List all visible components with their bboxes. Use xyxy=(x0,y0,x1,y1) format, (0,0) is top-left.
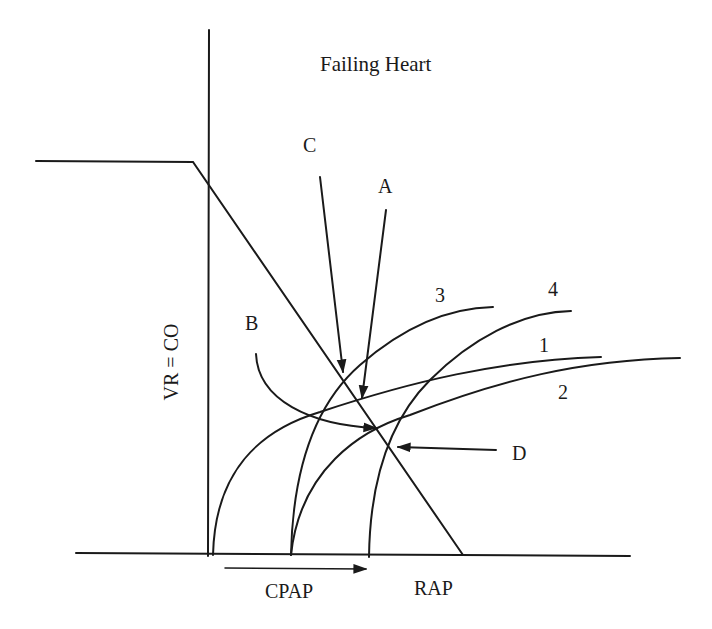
curve-label-1: 1 xyxy=(539,335,549,355)
arrow-label-d: D xyxy=(512,443,526,463)
arrow-c xyxy=(320,177,343,372)
diagram-title: Failing Heart xyxy=(320,54,431,75)
x-axis xyxy=(76,553,630,556)
venous-return-line xyxy=(36,161,463,555)
cpap-arrow xyxy=(225,568,366,569)
y-axis-label: VR = CO xyxy=(161,324,181,401)
curve-3 xyxy=(291,307,493,555)
arrow-b xyxy=(256,354,376,428)
curve-label-2: 2 xyxy=(558,382,568,402)
y-axis xyxy=(208,30,209,556)
arrow-d xyxy=(398,447,496,450)
cardiac-venous-return-diagram xyxy=(0,0,712,629)
arrow-label-a: A xyxy=(378,176,392,196)
curve-label-4: 4 xyxy=(548,279,558,299)
curve-2 xyxy=(291,358,680,555)
curve-label-3: 3 xyxy=(435,285,445,305)
x-axis-label: RAP xyxy=(414,578,453,598)
cpap-label: CPAP xyxy=(265,581,313,601)
curve-1 xyxy=(213,357,601,555)
arrow-label-b: B xyxy=(245,313,258,333)
arrow-label-c: C xyxy=(303,135,316,155)
arrow-a xyxy=(362,210,386,398)
